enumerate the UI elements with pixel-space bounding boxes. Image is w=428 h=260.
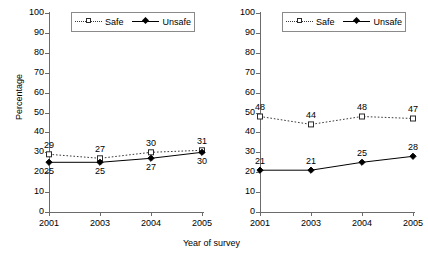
data-point-marker [360, 114, 365, 119]
x-tick-label: 2005 [393, 218, 428, 228]
legend-box: Safe Unsafe [71, 12, 195, 32]
data-point-label: 47 [400, 105, 426, 114]
legend-label-safe: Safe [316, 18, 335, 27]
series-line-safe [49, 150, 202, 158]
x-tick-label: 2004 [131, 218, 171, 228]
legend-item-safe[interactable]: Safe [75, 17, 124, 27]
safe-line-marker-icon [75, 17, 102, 27]
data-point-marker [309, 122, 314, 127]
series-line-unsafe [49, 152, 202, 162]
data-point-marker [148, 155, 154, 161]
data-point-label: 27 [87, 145, 113, 154]
x-tick-label: 2003 [291, 218, 331, 228]
x-tick [260, 212, 261, 216]
x-axis-label: Year of survey [0, 238, 423, 248]
data-point-marker [410, 153, 416, 159]
legend-box: Safe Unsafe [282, 12, 406, 32]
legend-label-unsafe: Unsafe [162, 18, 191, 27]
data-point-marker [411, 116, 416, 121]
legend-item-safe[interactable]: Safe [286, 17, 335, 27]
x-tick-label: 2003 [80, 218, 120, 228]
legend-item-unsafe[interactable]: Unsafe [132, 17, 191, 27]
data-point-marker [149, 150, 154, 155]
x-tick [100, 212, 101, 216]
x-tick [202, 212, 203, 216]
unsafe-line-marker-icon [132, 17, 159, 27]
unsafe-line-marker-icon [343, 17, 370, 27]
data-point-label: 29 [36, 141, 62, 150]
data-point-label: 27 [138, 163, 164, 172]
x-tick-label: 2004 [342, 218, 382, 228]
data-point-label: 25 [349, 149, 375, 158]
series-line-safe [260, 117, 413, 125]
data-point-label: 28 [400, 143, 426, 152]
legend-label-unsafe: Unsafe [373, 18, 402, 27]
chart-panel-left: 0102030405060708090100 Safe Unsafe 20012… [0, 0, 212, 236]
series-plot [0, 0, 212, 236]
data-point-label: 48 [247, 103, 273, 112]
x-tick-label: 2001 [29, 218, 69, 228]
data-point-label: 21 [247, 157, 273, 166]
x-tick [49, 212, 50, 216]
data-point-label: 44 [298, 111, 324, 120]
data-point-marker [257, 167, 263, 173]
safe-line-marker-icon [286, 17, 313, 27]
data-point-marker [47, 152, 52, 157]
data-point-marker [359, 159, 365, 165]
chart-panel-right: 0102030405060708090100 Safe Unsafe 20012… [211, 0, 423, 236]
data-point-marker [258, 114, 263, 119]
x-tick [151, 212, 152, 216]
data-point-label: 30 [138, 139, 164, 148]
data-point-marker [308, 167, 314, 173]
data-point-label: 25 [36, 167, 62, 176]
legend-label-safe: Safe [105, 18, 124, 27]
data-point-label: 21 [298, 157, 324, 166]
x-tick [413, 212, 414, 216]
data-point-label: 48 [349, 103, 375, 112]
data-point-label: 25 [87, 167, 113, 176]
x-tick [362, 212, 363, 216]
data-point-marker [46, 159, 52, 165]
x-tick-label: 2001 [240, 218, 280, 228]
legend-item-unsafe[interactable]: Unsafe [343, 17, 402, 27]
x-tick [311, 212, 312, 216]
series-line-unsafe [260, 156, 413, 170]
